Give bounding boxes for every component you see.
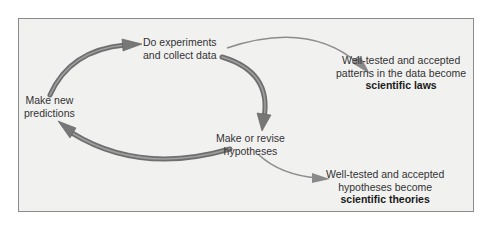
node-hypotheses-line-1: Make or revise (216, 132, 285, 145)
node-hypotheses-line-2: hypotheses (216, 145, 285, 158)
outcome-theories-term: scientific theories (326, 193, 444, 206)
node-experiments-line-1: Do experiments (143, 36, 217, 49)
arrow-predictions-to-experiments (50, 39, 142, 95)
outcome-theories-line-2: hypotheses become (326, 181, 444, 194)
arrow-hypotheses-to-theories (258, 154, 330, 183)
node-predictions: Make new predictions (24, 94, 75, 119)
outcome-laws-line-1: Well-tested and accepted (336, 54, 466, 67)
outcome-laws: Well-tested and accepted patterns in the… (336, 54, 466, 92)
arrow-experiments-to-hypotheses (222, 57, 271, 131)
outcome-laws-term: scientific laws (336, 79, 466, 92)
node-predictions-line-1: Make new (24, 94, 75, 107)
arrow-hypotheses-to-predictions (58, 121, 230, 159)
outcome-theories: Well-tested and accepted hypotheses beco… (326, 168, 444, 206)
node-predictions-line-2: predictions (24, 107, 75, 120)
outcome-theories-line-1: Well-tested and accepted (326, 168, 444, 181)
node-hypotheses: Make or revise hypotheses (216, 132, 285, 157)
node-experiments-line-2: and collect data (143, 49, 217, 62)
node-experiments: Do experiments and collect data (143, 36, 217, 61)
outcome-laws-line-2: patterns in the data become (336, 67, 466, 80)
